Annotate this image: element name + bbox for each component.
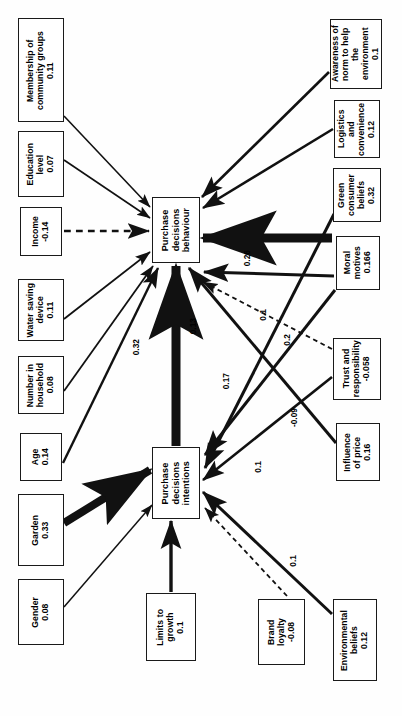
node-number-in-household[interactable]: Number in household 0.08 (18, 356, 64, 414)
node-label-membership: Membership of community groups 0.11 (26, 31, 56, 110)
node-label-education: Education level 0.07 (26, 143, 56, 185)
node-environmental-beliefs[interactable]: Environmental beliefs 0.12 (333, 599, 377, 681)
node-label-brand-loyalty: Brand loyalty -0.08 (267, 618, 297, 646)
node-label-logistics-and-convenience: Logistics and convenience 0.12 (337, 101, 377, 157)
node-label-purchase-decisions-intentions: Purchase decisions intentions (160, 461, 192, 505)
edge-garden-to-intentions (64, 470, 150, 523)
edge-moral-motives-to-behaviour (204, 272, 334, 276)
node-limits-to-growth[interactable]: Limits to growth 0.1 (146, 593, 196, 661)
edge-education-to-behaviour (64, 160, 150, 218)
edge-brand-loyalty-to-intentions (205, 508, 287, 596)
edge-label-label-neg-0-09: -0.09 (289, 408, 299, 427)
node-label-income: Income -0.14 (31, 216, 51, 247)
node-moral-motives[interactable]: Moral motives 0.166 (336, 236, 380, 290)
node-purchase-decisions-intentions[interactable]: Purchase decisions intentions (152, 447, 200, 519)
edge-awareness-to-behaviour (202, 72, 329, 197)
edge-logistics-to-behaviour (203, 129, 333, 208)
node-label-trust-and-responsibility: Trust and responsibility -0.058 (342, 340, 372, 397)
node-label-environmental-beliefs: Environmental beliefs 0.12 (340, 610, 370, 671)
edge-label-label-0-1-env: 0.1 (288, 555, 298, 567)
node-label-awareness-of-norm: Awareness of norm to help the environmen… (331, 20, 381, 88)
edge-label-label-0-32: 0.32 (131, 339, 141, 355)
node-label-limits-to-growth: Limits to growth 0.1 (156, 609, 186, 646)
node-education[interactable]: Education level 0.07 (18, 131, 64, 197)
node-awareness-of-norm[interactable]: Awareness of norm to help the environmen… (330, 19, 382, 89)
node-label-influence-of-price: Influence of price 0.16 (343, 433, 373, 472)
path-diagram: Membership of community groups 0.11Educa… (0, 0, 402, 716)
edge-label-label-0-17: 0.17 (221, 373, 231, 389)
node-label-moral-motives: Moral motives 0.166 (343, 246, 373, 279)
edge-label-label-0-13: 0.13 (188, 318, 198, 334)
node-membership[interactable]: Membership of community groups 0.11 (18, 18, 64, 122)
edge-environmental-beliefs-to-intentions (203, 492, 332, 614)
node-purchase-decisions-behaviour[interactable]: Purchase decisions behaviour (152, 197, 200, 263)
node-brand-loyalty[interactable]: Brand loyalty -0.08 (258, 599, 305, 665)
node-green-consumer-beliefs[interactable]: Green consumer beliefs 0.32 (333, 168, 381, 222)
node-water-saving-device[interactable]: Water saving device 0.11 (18, 279, 64, 341)
edge-label-label-0-2: 0.2 (282, 334, 292, 346)
edge-membership-to-behaviour (64, 116, 150, 207)
node-income[interactable]: Income -0.14 (20, 207, 62, 256)
edge-age-to-behaviour (63, 268, 158, 463)
node-age[interactable]: Age 0.14 (20, 433, 62, 481)
node-label-number-in-household: Number in household 0.08 (26, 363, 56, 407)
edge-influence-of-price-to-behaviour (189, 268, 336, 443)
node-label-purchase-decisions-behaviour: Purchase decisions behaviour (160, 208, 192, 252)
node-garden[interactable]: Garden 0.33 (18, 494, 64, 566)
node-gender[interactable]: Gender 0.08 (18, 579, 64, 645)
node-label-green-consumer-beliefs: Green consumer beliefs 0.32 (337, 174, 377, 216)
node-influence-of-price[interactable]: Influence of price 0.16 (336, 423, 380, 481)
edge-label-label-0-26: 0.26 (242, 250, 252, 266)
edge-gender-to-intentions (64, 505, 152, 607)
node-trust-and-responsibility[interactable]: Trust and responsibility -0.058 (333, 338, 381, 400)
node-label-gender: Gender 0.08 (31, 597, 51, 628)
edge-trust-to-intentions (203, 377, 332, 480)
edge-label-label-0-1-moral: 0.1 (258, 309, 268, 321)
node-logistics-and-convenience[interactable]: Logistics and convenience 0.12 (334, 100, 380, 158)
node-label-garden: Garden 0.33 (31, 515, 51, 546)
edge-label-label-0-1-trust: 0.1 (253, 461, 263, 473)
node-label-age: Age 0.14 (31, 448, 51, 465)
node-label-water-saving-device: Water saving device 0.11 (26, 283, 56, 337)
